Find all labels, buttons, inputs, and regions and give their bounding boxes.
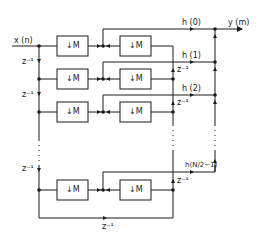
downsample-label: ↓M <box>66 108 80 116</box>
downsample-label: ↓M <box>129 186 143 194</box>
polyphase-filter-diagram <box>0 0 257 237</box>
downsample-label: ↓M <box>66 75 80 83</box>
coefficient-h2: h (2) <box>182 85 201 93</box>
right-delay-label: z⁻¹ <box>177 99 189 107</box>
bottom-delay-label: z⁻¹ <box>102 223 114 231</box>
downsample-label: ↓M <box>129 75 143 83</box>
downsample-label: ↓M <box>66 42 80 50</box>
coefficient-h1: h (1) <box>182 52 201 60</box>
downsample-label: ↓M <box>129 42 143 50</box>
input-label: x (n) <box>14 37 33 45</box>
downsample-label: ↓M <box>129 108 143 116</box>
left-delay-label: z⁻¹ <box>22 165 34 173</box>
output-label: y (m) <box>228 19 249 27</box>
left-delay-label: z⁻¹ <box>22 91 34 99</box>
left-delay-label: z⁻¹ <box>22 58 34 66</box>
right-delay-label: z⁻¹ <box>177 66 189 74</box>
coefficient-h0: h (0) <box>182 19 201 27</box>
coefficient-hN: h(N/2−1) <box>185 162 217 169</box>
right-delay-label: z⁻¹ <box>177 177 189 185</box>
downsample-label: ↓M <box>66 186 80 194</box>
